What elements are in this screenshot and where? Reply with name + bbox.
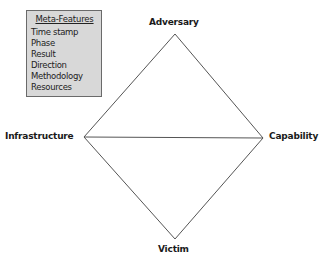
vertex-label-capability: Capability <box>269 131 318 141</box>
infrastructure-capability-edge <box>84 137 263 138</box>
vertex-label-infrastructure: Infrastructure <box>5 131 73 141</box>
vertex-label-victim: Victim <box>158 244 189 254</box>
diamond-outline <box>84 34 263 239</box>
vertex-label-adversary: Adversary <box>149 17 199 27</box>
